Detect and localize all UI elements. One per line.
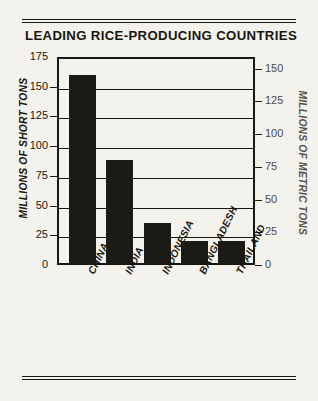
- right-tick-mark: [255, 134, 262, 135]
- left-tick-mark: [50, 87, 57, 88]
- left-tick-label: 25: [0, 228, 48, 240]
- right-tick-label: 100: [265, 127, 305, 139]
- right-tick-label: 75: [265, 160, 305, 172]
- right-tick-label: 0: [265, 258, 305, 270]
- right-tick-mark: [255, 69, 262, 70]
- left-tick-mark: [50, 206, 57, 207]
- left-tick-mark: [50, 116, 57, 117]
- right-tick-mark: [255, 167, 262, 168]
- bar: [106, 160, 133, 263]
- right-tick-label: 25: [265, 225, 305, 237]
- right-tick-label: 50: [265, 193, 305, 205]
- bottom-double-rule: [22, 376, 296, 380]
- right-tick-label: 125: [265, 94, 305, 106]
- left-tick-label: 175: [0, 50, 48, 62]
- right-tick-mark: [255, 200, 262, 201]
- chart-title: LEADING RICE-PRODUCING COUNTRIES: [25, 28, 299, 43]
- left-tick-mark: [50, 235, 57, 236]
- top-double-rule: [22, 19, 296, 23]
- left-tick-label: 100: [0, 139, 48, 151]
- left-tick-label: 75: [0, 169, 48, 181]
- left-tick-mark: [50, 146, 57, 147]
- right-tick-mark: [255, 265, 262, 266]
- left-tick-label: 125: [0, 109, 48, 121]
- left-tick-label: 0: [0, 258, 48, 270]
- left-tick-label: 50: [0, 199, 48, 211]
- bar: [69, 75, 96, 263]
- left-tick-label: 150: [0, 80, 48, 92]
- right-tick-mark: [255, 101, 262, 102]
- chart-figure: LEADING RICE-PRODUCING COUNTRIES MILLION…: [0, 0, 318, 401]
- left-tick-mark: [50, 176, 57, 177]
- right-tick-label: 150: [265, 62, 305, 74]
